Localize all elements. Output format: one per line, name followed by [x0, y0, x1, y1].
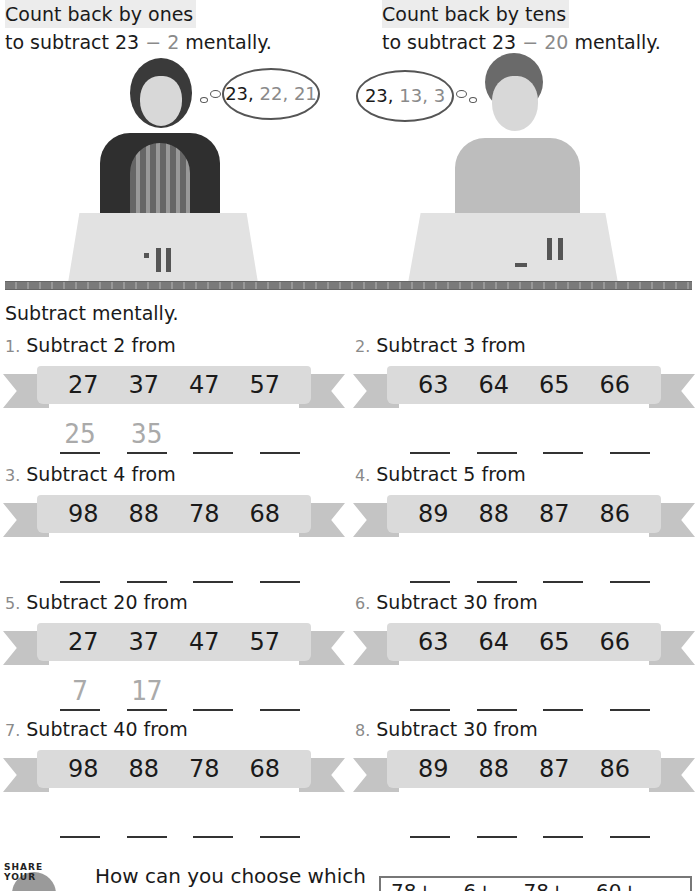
answer-blank[interactable] [60, 545, 100, 583]
answer-blank[interactable] [410, 416, 450, 454]
answer-row: 2535 [60, 416, 300, 456]
answer-row [60, 800, 300, 840]
problem-8: 8. Subtract 30 from89888786 [350, 718, 697, 846]
answer-blank[interactable] [260, 416, 300, 454]
problem-7: 7. Subtract 40 from98887868 [0, 718, 350, 846]
boy-face [492, 76, 538, 131]
answer-blank[interactable] [260, 800, 300, 838]
start-number: 63 [409, 628, 457, 656]
ribbon-band: 27374757 [37, 366, 311, 404]
start-number: 78 [180, 755, 228, 783]
intro-left: Count back by ones to subtract 23 − 2 me… [5, 0, 272, 56]
ribbon-band: 89888786 [387, 495, 661, 533]
answer-blank[interactable] [610, 545, 650, 583]
answer-blank[interactable] [477, 416, 517, 454]
tens-block [558, 238, 563, 260]
answer-blank[interactable] [477, 673, 517, 711]
ribbon-band: 63646566 [387, 623, 661, 661]
start-number: 27 [59, 371, 107, 399]
problem-label: 3. Subtract 4 from [5, 463, 176, 485]
ribbon-band: 98887868 [37, 495, 311, 533]
expression-box: 78+ 6+ 78+ 60+ [379, 876, 692, 891]
answer-row [410, 545, 650, 585]
problem-1: 1. Subtract 2 from273747572535 [0, 334, 350, 462]
answer-blank[interactable]: 17 [127, 673, 167, 711]
number-ribbon: 63646566 [353, 366, 695, 410]
number-ribbon: 27374757 [3, 366, 345, 410]
decorative-divider [5, 281, 692, 290]
answer-blank[interactable] [410, 800, 450, 838]
answer-blank[interactable] [193, 545, 233, 583]
start-number: 86 [591, 755, 639, 783]
answer-blank[interactable]: 25 [60, 416, 100, 454]
answer-blank[interactable] [410, 673, 450, 711]
answer-blank[interactable] [127, 545, 167, 583]
badge-label: SHARE YOUR [4, 862, 64, 882]
answer-blank[interactable] [543, 800, 583, 838]
answer-blank[interactable] [193, 416, 233, 454]
answer-blank[interactable] [543, 545, 583, 583]
problem-6: 6. Subtract 30 from63646566 [350, 591, 697, 719]
instruction: Subtract mentally. [5, 302, 178, 324]
thought-bubble-dot [210, 90, 221, 98]
answer-blank[interactable] [610, 416, 650, 454]
tens-block [166, 248, 171, 272]
answer-blank[interactable] [543, 416, 583, 454]
ribbon-band: 27374757 [37, 623, 311, 661]
problem-label: 8. Subtract 30 from [355, 718, 538, 740]
start-number: 65 [530, 371, 578, 399]
answer-blank[interactable] [260, 545, 300, 583]
start-number: 27 [59, 628, 107, 656]
answer-blank[interactable]: 35 [127, 416, 167, 454]
start-number: 47 [180, 371, 228, 399]
answer-blank[interactable] [477, 800, 517, 838]
answer-blank[interactable] [610, 800, 650, 838]
thought-cloud-right: 23, 13, 3 [356, 70, 454, 122]
problem-label: 7. Subtract 40 from [5, 718, 188, 740]
number-ribbon: 27374757 [3, 623, 345, 667]
answer-row: 717 [60, 673, 300, 713]
answer-blank[interactable]: 7 [60, 673, 100, 711]
table [408, 213, 618, 283]
problem-label: 6. Subtract 30 from [355, 591, 538, 613]
ribbon-band: 63646566 [387, 366, 661, 404]
tens-block [547, 238, 552, 260]
start-number: 87 [530, 500, 578, 528]
problem-2: 2. Subtract 3 from63646566 [350, 334, 697, 462]
start-number: 64 [470, 628, 518, 656]
start-number: 63 [409, 371, 457, 399]
start-number: 78 [180, 500, 228, 528]
answer-blank[interactable] [60, 800, 100, 838]
tens-block [156, 248, 161, 272]
answer-row [410, 673, 650, 713]
start-number: 88 [470, 500, 518, 528]
share-badge: SHARE YOUR [4, 862, 64, 891]
girl-jumper [130, 143, 190, 218]
ribbon-band: 98887868 [37, 750, 311, 788]
start-number: 88 [120, 755, 168, 783]
answer-blank[interactable] [260, 673, 300, 711]
ones-cubes [515, 263, 527, 267]
problem-label: 2. Subtract 3 from [355, 334, 526, 356]
start-number: 89 [409, 500, 457, 528]
start-number: 68 [241, 500, 289, 528]
start-number: 68 [241, 755, 289, 783]
answer-blank[interactable] [193, 673, 233, 711]
number-ribbon: 89888786 [353, 495, 695, 539]
problem-4: 4. Subtract 5 from89888786 [350, 463, 697, 591]
answer-blank[interactable] [410, 545, 450, 583]
answer-blank[interactable] [610, 673, 650, 711]
answer-blank[interactable] [477, 545, 517, 583]
answer-blank[interactable] [193, 800, 233, 838]
answer-blank[interactable] [543, 673, 583, 711]
start-number: 47 [180, 628, 228, 656]
number-ribbon: 63646566 [353, 623, 695, 667]
thought-bubble-dot [456, 90, 467, 98]
thought-bubble-dot [469, 97, 477, 103]
table [68, 213, 258, 283]
answer-blank[interactable] [127, 800, 167, 838]
answer-row [410, 416, 650, 456]
start-number: 37 [120, 628, 168, 656]
ribbon-band: 89888786 [387, 750, 661, 788]
start-number: 89 [409, 755, 457, 783]
